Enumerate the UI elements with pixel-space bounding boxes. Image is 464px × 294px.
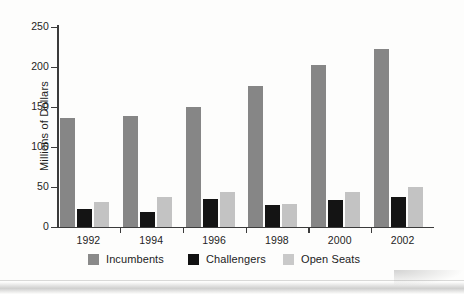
bar-challengers-2002 [391, 197, 406, 227]
legend-label: Open Seats [301, 253, 360, 265]
grouped-bar-chart: Millions of Dollars 050100150200250 1992… [0, 0, 464, 294]
y-tick-label: 150 [5, 100, 49, 112]
x-tick-label: 2002 [371, 234, 434, 246]
x-tick-label: 1994 [120, 234, 183, 246]
x-tick-mark [371, 227, 372, 233]
y-tick-label: 0 [5, 220, 49, 232]
bar-incumbents-2002 [374, 49, 389, 227]
x-tick-mark [246, 227, 247, 233]
bar-incumbents-1996 [186, 107, 201, 227]
page-corner-shadow [394, 270, 464, 286]
bar-incumbents-2000 [311, 65, 326, 227]
bar-open-seats-1996 [220, 192, 235, 227]
x-tick-label: 1992 [57, 234, 120, 246]
x-tick-label: 1998 [246, 234, 309, 246]
plot-area [57, 27, 434, 227]
x-tick-label: 1996 [183, 234, 246, 246]
y-tick-label: 50 [5, 180, 49, 192]
bar-open-seats-2000 [345, 192, 360, 227]
bar-challengers-1998 [265, 205, 280, 227]
bar-open-seats-1994 [157, 197, 172, 227]
incumbents-swatch [88, 254, 99, 265]
bar-challengers-2000 [328, 200, 343, 227]
bar-open-seats-2002 [408, 187, 423, 227]
y-tick-label: 200 [5, 60, 49, 72]
bar-incumbents-1998 [248, 86, 263, 227]
x-tick-mark [120, 227, 121, 233]
x-tick-label: 2000 [308, 234, 371, 246]
legend-item-challengers[interactable]: Challengers [188, 253, 266, 265]
bar-challengers-1996 [203, 199, 218, 227]
bar-open-seats-1992 [94, 202, 109, 227]
challengers-swatch [188, 254, 199, 265]
x-tick-mark [308, 227, 309, 233]
legend-item-incumbents[interactable]: Incumbents [88, 253, 164, 265]
y-axis-labels: 050100150200250 [0, 0, 49, 294]
bar-incumbents-1992 [60, 118, 75, 227]
x-tick-mark [183, 227, 184, 233]
legend-label: Challengers [206, 253, 266, 265]
scanned-page: Millions of Dollars 050100150200250 1992… [0, 0, 464, 294]
y-tick-label: 250 [5, 20, 49, 32]
bar-open-seats-1998 [282, 204, 297, 227]
legend-label: Incumbents [106, 253, 164, 265]
legend-item-open-seats[interactable]: Open Seats [283, 253, 360, 265]
bar-challengers-1994 [140, 212, 155, 227]
open-seats-swatch [283, 254, 294, 265]
y-tick-label: 100 [5, 140, 49, 152]
bar-incumbents-1994 [123, 116, 138, 227]
bar-challengers-1992 [77, 209, 92, 227]
